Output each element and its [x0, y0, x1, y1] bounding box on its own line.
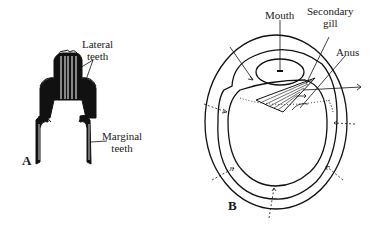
radula-teeth-figure — [36, 50, 96, 164]
panel-label-b: B — [228, 198, 237, 214]
gill-cavity-figure — [205, 35, 347, 209]
secondary-text: Secondary — [307, 5, 353, 17]
teeth-text: teeth — [82, 50, 113, 62]
outer-wall — [205, 35, 347, 209]
label-mouth: Mouth — [265, 9, 294, 21]
diagram-canvas — [0, 0, 383, 230]
teeth-text: teeth — [102, 142, 142, 154]
panel-label-a: A — [22, 153, 31, 169]
lateral-text: Lateral — [82, 38, 113, 50]
inner-cavity — [228, 80, 327, 186]
marginal-text: Marginal — [102, 130, 142, 142]
label-lateral-teeth: Lateral teeth — [82, 38, 113, 62]
gill-text: gill — [307, 17, 353, 29]
label-secondary-gill: Secondary gill — [307, 5, 353, 29]
label-anus: Anus — [336, 46, 359, 58]
middle-wall — [218, 50, 337, 199]
water-flow-arrows — [204, 47, 361, 218]
label-marginal-teeth: Marginal teeth — [102, 130, 142, 154]
